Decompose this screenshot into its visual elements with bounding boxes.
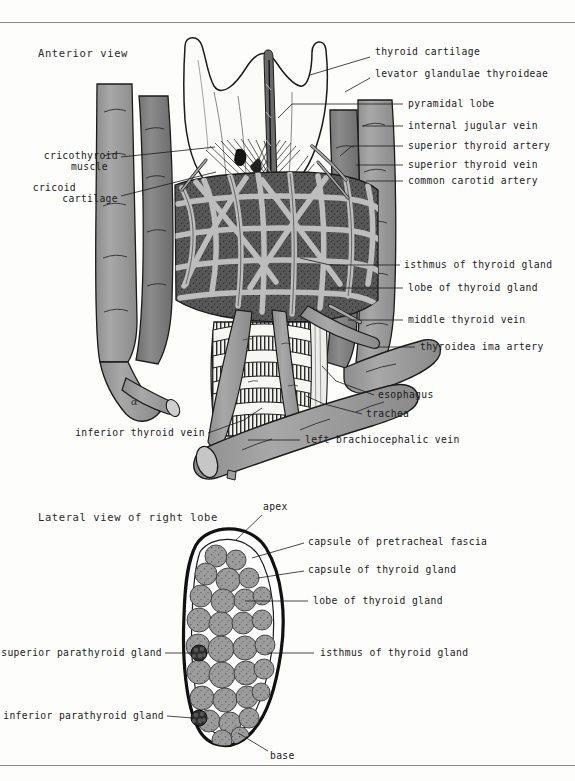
- lobe-of-thyroid-gland-shape: [180, 520, 292, 760]
- leader-cricothyroid-muscle: [121, 147, 215, 157]
- right-inner-vessel: [326, 110, 359, 368]
- leader-capsule-of-thyroid-gland: [258, 571, 304, 578]
- label-thyroid-cartilage: thyroid cartilage: [375, 46, 480, 57]
- label-inferior-parathyroid-gland: inferior parathyroid gland: [0, 710, 164, 721]
- artist-mark: α: [131, 396, 138, 407]
- label-superior-parathyroid-gland: superior parathyroid gland: [0, 647, 162, 658]
- leader-pyramidal-lobe: [278, 104, 403, 118]
- label-superior-thyroid-vein: superior thyroid vein: [408, 159, 538, 170]
- label-base: base: [270, 750, 295, 761]
- label-lobe-of-thyroid-gland: lobe of thyroid gland: [408, 282, 538, 293]
- cartilage-notch-shadow: [234, 149, 246, 166]
- leader-isthmus-of-thyroid-gland: [300, 258, 400, 265]
- label-pyramidal-lobe: pyramidal lobe: [408, 98, 495, 109]
- superior-thyroid-vessels: [182, 146, 348, 198]
- label-common-carotid-artery: common carotid artery: [408, 175, 538, 186]
- capsule-of-thyroid-gland-shape: [192, 539, 274, 736]
- leader-levator-glandulae: [345, 78, 370, 92]
- leader-cricoid-cartilage: [121, 172, 216, 196]
- trachea-shape: [211, 322, 313, 436]
- anterior-view-title: Anterior view: [38, 47, 128, 59]
- label-cricothyroid-muscle: cricothyroid muscle: [0, 150, 118, 172]
- label-esophagus: esophagus: [378, 389, 434, 400]
- label-capsule-of-thyroid-gland: capsule of thyroid gland: [308, 564, 456, 575]
- capsule-of-pretracheal-fascia-shape: [184, 529, 284, 746]
- left-inner-vessel: [136, 96, 173, 364]
- label-left-brachiocephalic-vein: left brachiocephalic vein: [305, 434, 460, 445]
- thyroid-gland-plexus: [175, 172, 382, 322]
- label-levator-glandulae-thyroideae: levator glandulae thyroideae: [375, 68, 548, 79]
- lateral-view-title: Lateral view of right lobe: [38, 511, 218, 523]
- leader-capsule-of-pretracheal-fascia: [252, 543, 304, 558]
- label-cricothyroid-muscle-line1: cricothyroid: [0, 150, 118, 161]
- thyroid-cartilage-shape: [184, 38, 327, 190]
- label-cricoid-cartilage-line1: cricoid: [0, 182, 118, 193]
- label-inferior-thyroid-vein: inferior thyroid vein: [0, 427, 205, 438]
- label-cricothyroid-muscle-line2: muscle: [0, 161, 118, 172]
- cricothyroid-muscle-fibers: [206, 139, 314, 194]
- leader-inferior-thyroid-vein: [208, 408, 262, 433]
- label-cricoid-cartilage: cricoid cartilage: [0, 182, 118, 204]
- thyroidea-ima-artery: [300, 306, 379, 348]
- pyramidal-lobe-shape: [264, 50, 277, 191]
- plate-top-rule: [0, 22, 575, 23]
- label-superior-thyroid-artery: superior thyroid artery: [408, 140, 550, 151]
- cartilage-notch-shadow-2: [250, 158, 262, 172]
- label-cricoid-cartilage-line2: cartilage: [0, 193, 118, 204]
- label-lobe-of-thyroid-gland-lateral: lobe of thyroid gland: [313, 595, 443, 606]
- label-trachea: trachea: [366, 408, 409, 419]
- inferior-thyroid-veins: [208, 310, 302, 447]
- label-isthmus-of-thyroid-gland: isthmus of thyroid gland: [404, 259, 552, 270]
- leader-superior-thyroid-artery: [340, 146, 403, 156]
- plate-bottom-rule: [0, 765, 575, 766]
- leader-trachea: [306, 396, 362, 414]
- label-internal-jugular-vein: internal jugular vein: [408, 120, 538, 131]
- label-thyroidea-ima-artery: thyroidea ima artery: [420, 341, 544, 352]
- left-vessel-column: [96, 84, 160, 421]
- leader-thyroid-cartilage: [310, 57, 370, 75]
- leader-base: [238, 733, 268, 751]
- superior-parathyroid-gland-shape: [191, 645, 207, 661]
- leader-esophagus: [322, 366, 374, 395]
- label-isthmus-of-thyroid-gland-lateral: isthmus of thyroid gland: [320, 647, 468, 658]
- label-capsule-of-pretracheal-fascia: capsule of pretracheal fascia: [308, 536, 487, 547]
- esophagus-shape: [308, 318, 327, 432]
- leader-inferior-parathyroid-gland: [167, 716, 193, 718]
- anatomical-plate: Anterior view Lateral view of right lobe…: [0, 0, 575, 781]
- right-jugular-column: [356, 100, 396, 366]
- label-apex: apex: [263, 501, 288, 512]
- cricoid-cartilage-shape: [208, 186, 322, 222]
- plate-artwork: [0, 0, 575, 781]
- middle-thyroid-vein-shape: [330, 306, 360, 322]
- inferior-parathyroid-gland-shape: [191, 710, 207, 726]
- leader-apex: [236, 515, 262, 540]
- label-middle-thyroid-vein: middle thyroid vein: [408, 314, 525, 325]
